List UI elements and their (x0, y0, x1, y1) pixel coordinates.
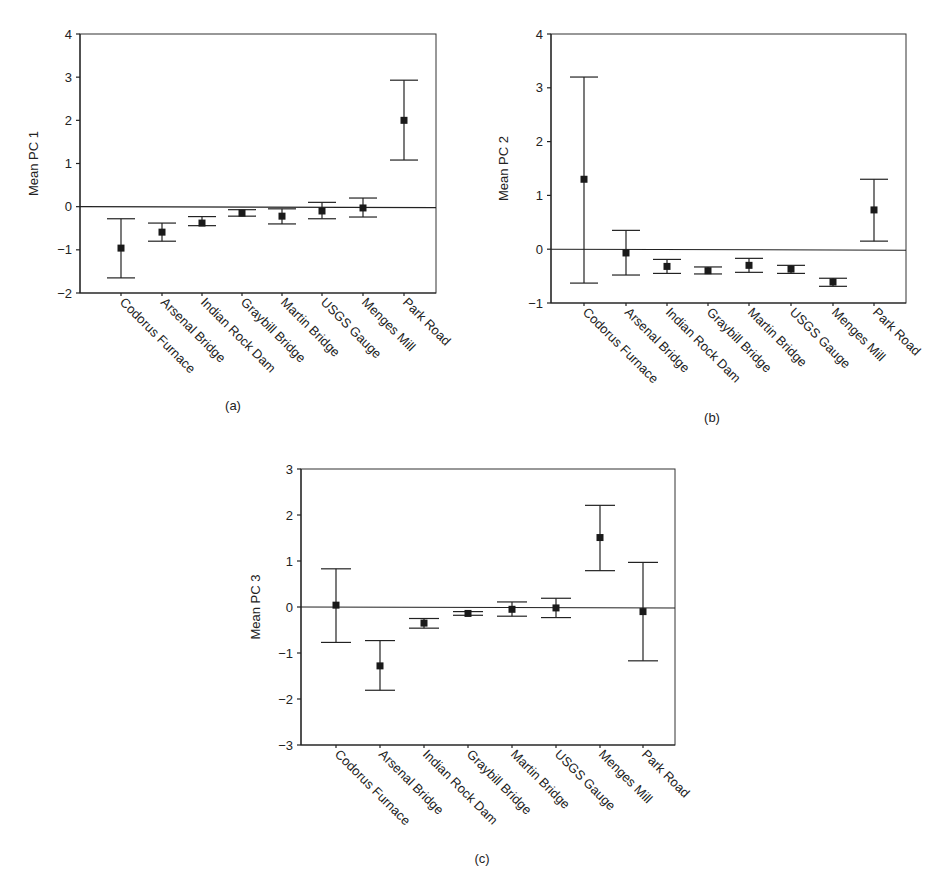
error-bar (365, 641, 395, 691)
chart-panel-c: −3−2−10123Mean PC 3Codorus FurnaceArsena… (248, 462, 693, 867)
mean-marker (871, 206, 878, 213)
error-bar (188, 217, 216, 227)
zero-reference-line (80, 207, 436, 208)
y-tick-label: 1 (286, 554, 293, 569)
zero-reference-line (301, 607, 675, 608)
mean-marker (581, 176, 588, 183)
mean-marker (239, 210, 246, 217)
plot-frame (551, 34, 906, 303)
mean-marker (553, 604, 560, 611)
y-axis-label: Mean PC 3 (248, 574, 263, 639)
y-tick-label: 4 (65, 27, 72, 42)
error-bar (777, 265, 805, 273)
error-bar (860, 179, 888, 241)
error-bar (107, 219, 135, 278)
error-bar (585, 505, 615, 570)
x-category-label: Indian Rock Dam (663, 305, 744, 386)
mean-marker (509, 606, 516, 613)
y-tick-label: 0 (65, 199, 72, 214)
panel-label: (b) (704, 410, 720, 425)
error-bar (570, 77, 598, 283)
mean-marker (333, 602, 340, 609)
error-bar (228, 210, 256, 217)
error-bar (653, 259, 681, 273)
mean-marker (640, 608, 647, 615)
mean-marker (279, 213, 286, 220)
y-tick-label: 1 (536, 188, 543, 203)
y-tick-label: 4 (536, 27, 543, 42)
y-tick-label: −1 (278, 646, 293, 661)
error-bar (497, 602, 527, 616)
mean-marker (421, 620, 428, 627)
plot-frame (80, 34, 436, 293)
mean-marker (830, 279, 837, 286)
mean-marker (159, 229, 166, 236)
figure-canvas: −2−101234Mean PC 1Codorus FurnaceArsenal… (0, 0, 944, 888)
error-bar (819, 278, 847, 286)
mean-marker (118, 245, 125, 252)
x-category-label: Indian Rock Dam (420, 747, 501, 828)
y-axis-label: Mean PC 1 (26, 131, 41, 196)
y-tick-label: −1 (57, 242, 72, 257)
error-bar (308, 202, 336, 218)
chart-panel-b: −101234Mean PC 2Codorus FurnaceArsenal B… (496, 27, 924, 426)
mean-marker (401, 117, 408, 124)
error-bar (735, 258, 763, 272)
error-bar (612, 230, 640, 275)
y-tick-label: 2 (286, 508, 293, 523)
y-tick-label: 3 (536, 80, 543, 95)
y-tick-label: 0 (286, 600, 293, 615)
y-tick-label: 3 (65, 70, 72, 85)
panel-label: (a) (225, 398, 241, 413)
y-tick-label: 2 (536, 134, 543, 149)
y-tick-label: 1 (65, 156, 72, 171)
x-category-label: Codorus Furnace (580, 305, 662, 387)
y-tick-label: 2 (65, 113, 72, 128)
error-bar (321, 569, 351, 643)
x-category-label: Codorus Furnace (332, 747, 414, 829)
x-category-label: Codorus Furnace (117, 295, 199, 377)
mean-marker (199, 220, 206, 227)
mean-marker (623, 249, 630, 256)
error-bar (148, 223, 176, 241)
error-bar (628, 562, 658, 660)
panel-label: (c) (474, 851, 489, 866)
mean-marker (597, 534, 604, 541)
error-bar (268, 209, 296, 224)
mean-marker (319, 207, 326, 214)
mean-marker (377, 662, 384, 669)
y-tick-label: −2 (57, 286, 72, 301)
y-tick-label: −3 (278, 738, 293, 753)
y-tick-label: 3 (286, 462, 293, 477)
mean-marker (664, 263, 671, 270)
zero-reference-line (551, 249, 906, 250)
mean-marker (360, 204, 367, 211)
y-tick-label: −2 (278, 692, 293, 707)
error-bar (694, 267, 722, 274)
mean-marker (746, 262, 753, 269)
mean-marker (788, 266, 795, 273)
mean-marker (705, 267, 712, 274)
y-tick-label: −1 (528, 296, 543, 311)
error-bar (409, 619, 439, 629)
chart-panel-a: −2−101234Mean PC 1Codorus FurnaceArsenal… (26, 27, 454, 414)
error-bar (390, 80, 418, 160)
mean-marker (465, 610, 472, 617)
error-bar (453, 610, 483, 617)
y-tick-label: 0 (536, 242, 543, 257)
y-axis-label: Mean PC 2 (496, 136, 511, 201)
